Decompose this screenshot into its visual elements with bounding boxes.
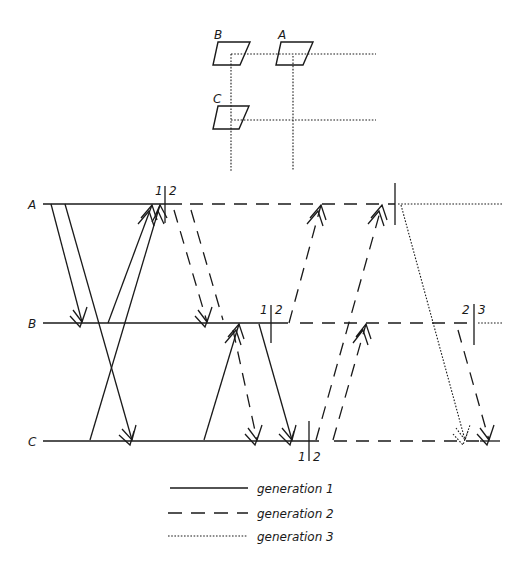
- node-b-label: B: [214, 28, 222, 42]
- lane-a-label: A: [27, 198, 36, 212]
- boundary-c-1-2: 1 2: [298, 421, 321, 464]
- legend: generation 1 generation 2 generation 3: [168, 482, 334, 544]
- node-c-label: C: [213, 92, 222, 106]
- svg-text:1: 1: [260, 303, 268, 317]
- svg-text:1: 1: [155, 184, 163, 198]
- legend-label-1: generation 1: [257, 482, 334, 496]
- svg-text:2: 2: [313, 450, 321, 464]
- legend-item-generation-2: generation 2: [168, 507, 334, 521]
- node-a-label: A: [277, 28, 286, 42]
- svg-text:1: 1: [298, 450, 306, 464]
- svg-text:2: 2: [462, 303, 470, 317]
- legend-label-3: generation 3: [257, 530, 334, 544]
- lane-c-label: C: [28, 435, 37, 449]
- svg-text:3: 3: [478, 303, 486, 317]
- svg-text:2: 2: [275, 303, 283, 317]
- legend-label-2: generation 2: [257, 507, 334, 521]
- legend-item-generation-1: generation 1: [170, 482, 334, 496]
- inset-topology: B A C: [213, 28, 376, 171]
- boundary-b-2-3: 2 3: [462, 303, 486, 345]
- lane-b-label: B: [28, 317, 36, 331]
- diagram-canvas: B A C A B C 1 2 1 2 1 2 2: [0, 0, 528, 566]
- legend-item-generation-3: generation 3: [168, 530, 334, 544]
- generation-2-messages: [174, 205, 494, 445]
- svg-text:2: 2: [169, 184, 177, 198]
- generation-1-messages: [51, 204, 296, 445]
- generation-3-messages: [401, 205, 470, 445]
- node-a-shape: [276, 42, 313, 65]
